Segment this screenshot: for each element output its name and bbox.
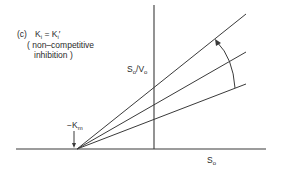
y-axis-label: So/Vo	[127, 65, 147, 75]
slope-increase-arrow	[217, 42, 235, 88]
plot-line-bottom	[77, 84, 246, 149]
note-line-2: inhibition )	[34, 51, 73, 60]
km-arrowhead-icon	[72, 143, 76, 148]
note-line-1: ( non–competitive	[27, 41, 94, 50]
panel-tag: (c)	[17, 30, 27, 39]
condition-label: Ki = Ki′	[35, 30, 60, 40]
intercept-label: −Km	[67, 121, 83, 131]
diagram-canvas	[0, 0, 282, 172]
plot-line-top	[77, 14, 246, 149]
x-axis-label: So	[207, 156, 216, 166]
plot-line-middle	[77, 52, 246, 149]
